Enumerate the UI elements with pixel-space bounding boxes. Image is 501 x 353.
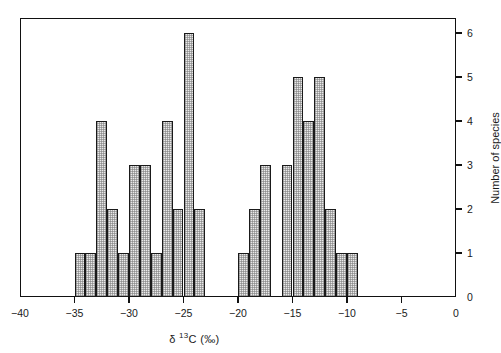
y-axis-title: Number of species [489,112,501,204]
histogram-bar [282,165,293,297]
histogram-bar [336,253,347,297]
x-axis-tick [346,296,347,303]
y-axis-tick [455,76,462,77]
histogram-bar [314,77,325,297]
y-axis-tick-label: 3 [467,159,473,171]
histogram-bar [75,253,86,297]
y-axis-tick-label: 5 [467,71,473,83]
x-axis-title-suffix: C (‰) [189,333,220,345]
y-axis-tick-label: 0 [467,291,473,303]
y-axis-tick [455,120,462,121]
x-axis-tick [292,296,293,303]
histogram-bar [238,253,249,297]
histogram-bar [194,209,205,297]
y-axis-tick [455,164,462,165]
y-axis-tick [455,252,462,253]
x-axis-tick [183,296,184,303]
histogram-bar [140,165,151,297]
x-axis-tick-label: −5 [396,307,408,319]
histogram-bar [129,165,140,297]
histogram-bar [96,121,107,297]
histogram-bar [162,121,173,297]
histogram-bar [347,253,358,297]
y-axis-tick [455,208,462,209]
histogram-bar [85,253,96,297]
x-axis-tick [128,296,129,303]
x-axis-title: δ 13C (‰) [169,331,219,345]
x-axis-title-superscript: 13 [179,331,189,340]
x-axis-tick-label: −30 [120,307,138,319]
histogram-bar [249,209,260,297]
histogram-bar [173,209,184,297]
x-axis-tick-label: −20 [229,307,247,319]
y-axis-tick-label: 6 [467,27,473,39]
y-axis-tick-label: 1 [467,247,473,259]
y-axis-tick [455,32,462,33]
x-axis-tick-label: −15 [284,307,302,319]
x-axis-tick-label: −35 [66,307,84,319]
x-axis-title-prefix: δ [169,333,179,345]
x-axis-tick [401,296,402,303]
y-axis-tick-label: 4 [467,115,473,127]
histogram-bar [118,253,129,297]
histogram-bar [293,77,304,297]
histogram-bar [325,209,336,297]
histogram-bar [184,33,195,297]
x-axis-tick-label: −25 [175,307,193,319]
histogram-bar [151,253,162,297]
x-axis-tick [237,296,238,303]
x-axis-tick [74,296,75,303]
x-axis-tick-label: 0 [453,307,459,319]
y-axis-tick-label: 2 [467,203,473,215]
x-axis-tick-label: −40 [11,307,29,319]
histogram-bar [107,209,118,297]
histogram-bar [260,165,271,297]
x-axis-tick-label: −10 [338,307,356,319]
histogram-bar [303,121,314,297]
